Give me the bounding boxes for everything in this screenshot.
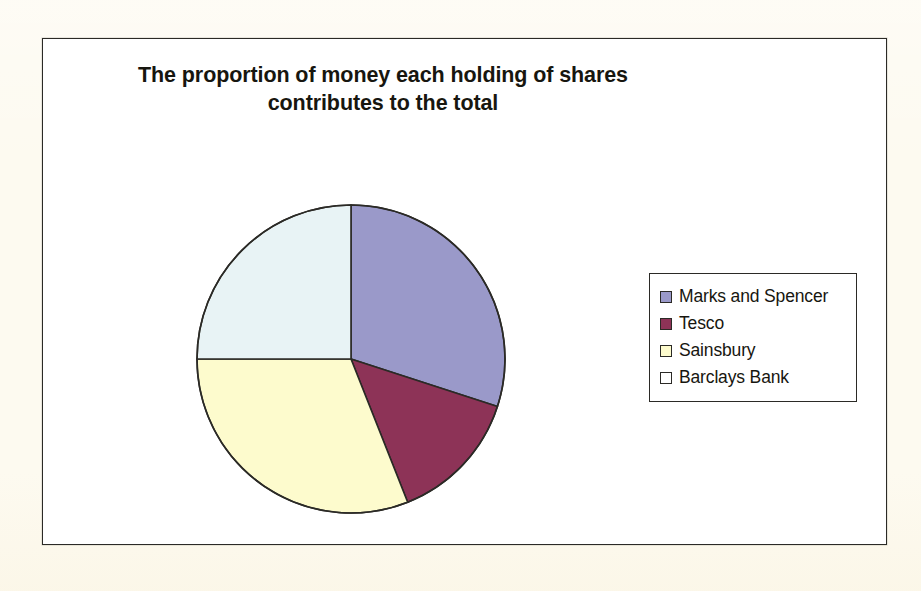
pie-slice-barclays-bank[interactable]	[197, 205, 351, 359]
legend-label-tesco: Tesco	[679, 313, 724, 334]
legend-label-barclays-bank: Barclays Bank	[679, 367, 789, 388]
legend-item-marks-and-spencer[interactable]: Marks and Spencer	[660, 283, 846, 310]
chart-frame: The proportion of money each holding of …	[42, 38, 887, 545]
plot-area: the work shares	[43, 39, 663, 546]
pie-chart	[193, 201, 509, 517]
legend-swatch-barclays-bank	[660, 372, 672, 384]
legend-label-marks-and-spencer: Marks and Spencer	[679, 286, 828, 307]
legend-swatch-sainsbury	[660, 345, 672, 357]
legend-item-barclays-bank[interactable]: Barclays Bank	[660, 364, 846, 391]
legend: Marks and Spencer Tesco Sainsbury Barcla…	[649, 273, 857, 402]
legend-item-sainsbury[interactable]: Sainsbury	[660, 337, 846, 364]
legend-label-sainsbury: Sainsbury	[679, 340, 755, 361]
pie-slice-group	[197, 205, 505, 513]
legend-swatch-marks-and-spencer	[660, 291, 672, 303]
legend-item-tesco[interactable]: Tesco	[660, 310, 846, 337]
legend-swatch-tesco	[660, 318, 672, 330]
